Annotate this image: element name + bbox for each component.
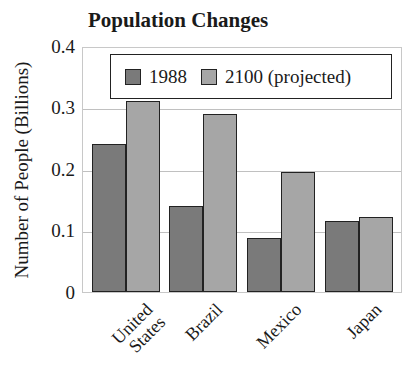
y-tick-0-1: 0.1 — [51, 220, 75, 242]
chart-title: Population Changes — [88, 8, 268, 33]
legend-item-2100: 2100 (projected) — [201, 66, 351, 88]
y-tick-0: 0 — [66, 282, 76, 304]
y-axis-label: Number of People (Billions) — [11, 62, 33, 279]
bar-united-states-1988 — [92, 144, 126, 292]
legend-label: 2100 (projected) — [225, 66, 351, 88]
y-tick-0-2: 0.2 — [51, 159, 75, 181]
bar-united-states-2100 — [126, 101, 160, 292]
legend: 1988 2100 (projected) — [110, 54, 392, 99]
bar-japan-2100 — [359, 217, 393, 292]
x-tick-label: United States — [108, 300, 168, 360]
bar-brazil-2100 — [203, 114, 237, 292]
y-tick-0-4: 0.4 — [51, 36, 75, 58]
x-tick-label: Mexico — [253, 300, 305, 352]
bar-brazil-1988 — [169, 206, 203, 292]
legend-swatch-icon — [125, 69, 141, 85]
legend-label: 1988 — [149, 66, 187, 88]
bar-mexico-2100 — [281, 172, 315, 292]
y-tick-0-3: 0.3 — [51, 97, 75, 119]
bar-japan-1988 — [325, 221, 359, 292]
x-tick-label: Brazil — [182, 300, 226, 344]
legend-swatch-icon — [201, 69, 217, 85]
bar-mexico-1988 — [247, 238, 281, 292]
legend-item-1988: 1988 — [125, 66, 187, 88]
x-tick-label: Japan — [343, 300, 385, 342]
